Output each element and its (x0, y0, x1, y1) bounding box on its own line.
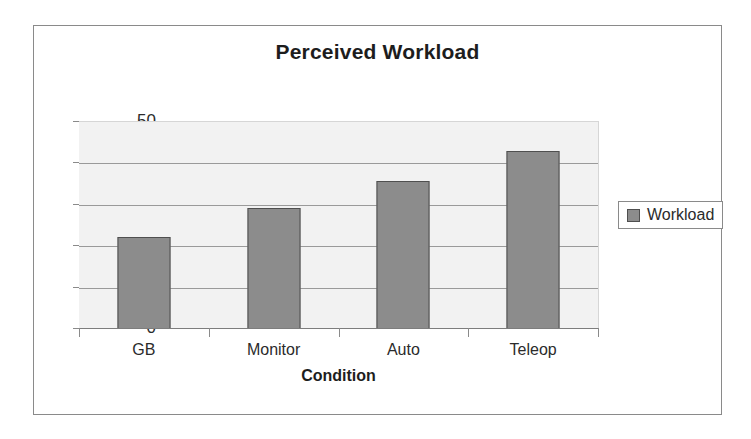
x-tick-mark-1 (209, 328, 210, 337)
legend-label-workload: Workload (647, 206, 714, 224)
bar-slot-gb (79, 122, 209, 329)
bar-slot-auto (339, 122, 469, 329)
x-tick-label-monitor: Monitor (209, 341, 339, 359)
x-tick-label-gb: GB (79, 341, 209, 359)
x-tick-mark-2 (339, 328, 340, 337)
bar-teleop[interactable] (507, 151, 560, 329)
workload-swatch-icon (627, 209, 640, 222)
x-axis-title: Condition (79, 367, 598, 385)
bar-slot-teleop (468, 122, 598, 329)
bar-auto[interactable] (377, 181, 430, 329)
x-tick-label-teleop: Teleop (468, 341, 598, 359)
chart-frame: Perceived Workload 50 40 30 20 10 0 (33, 25, 722, 415)
x-tick-mark-0 (79, 328, 80, 337)
chart-title: Perceived Workload (34, 40, 721, 64)
bar-slot-monitor (209, 122, 339, 329)
legend[interactable]: Workload (618, 201, 723, 229)
bar-gb[interactable] (117, 237, 170, 329)
x-tick-label-auto: Auto (339, 341, 469, 359)
bar-monitor[interactable] (247, 208, 300, 329)
x-tick-mark-4 (598, 328, 599, 337)
plot-area (79, 121, 599, 329)
x-tick-mark-3 (468, 328, 469, 337)
